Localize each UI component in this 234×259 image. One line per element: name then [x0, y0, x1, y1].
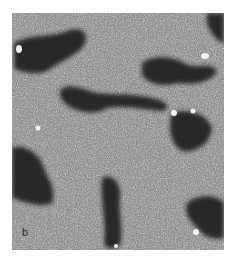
micrograph-panel: b — [12, 13, 224, 250]
panel-label: b — [22, 227, 28, 238]
micrograph-image — [12, 13, 224, 250]
